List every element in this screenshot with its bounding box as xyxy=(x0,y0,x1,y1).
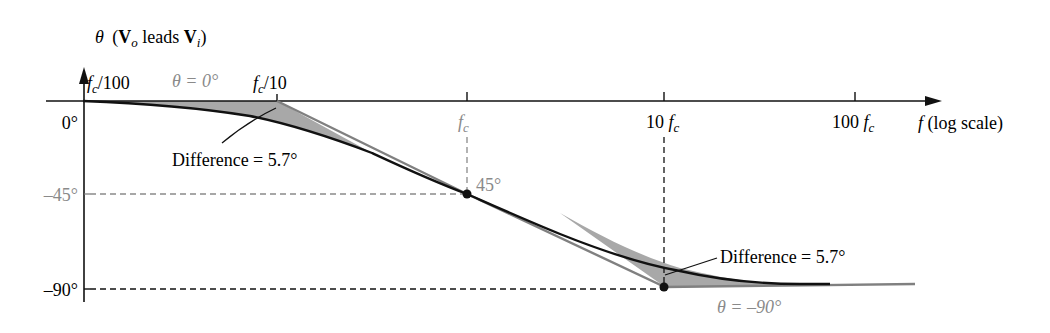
y-axis-title: θ (Vo leads Vi) xyxy=(95,27,206,50)
y-tick-label-minus45: –45° xyxy=(43,185,78,205)
theta-zero-label: θ = 0° xyxy=(172,71,218,91)
difference-label-right: Difference = 5.7° xyxy=(720,247,845,267)
x-tick-label-fc-100: fc/100 xyxy=(87,73,130,96)
y-tick-label-0: 0° xyxy=(62,113,78,133)
point-fc-45 xyxy=(463,190,472,199)
actual-phase-curve xyxy=(83,101,830,284)
y-tick-label-minus90: –90° xyxy=(43,280,78,300)
x-tick-label-fc: fc xyxy=(458,112,469,135)
x-axis-arrow-icon xyxy=(925,96,942,106)
difference-label-left: Difference = 5.7° xyxy=(172,150,297,170)
x-tick-label-fc-10: fc/10 xyxy=(253,73,287,96)
point-10fc-90 xyxy=(660,283,669,292)
x-axis-title: f (log scale) xyxy=(918,113,1003,134)
x-tick-label-100fc: 100 fc xyxy=(832,112,875,135)
x-tick-label-10fc: 10 fc xyxy=(646,112,680,135)
theta-minus90-label: θ = –90° xyxy=(717,297,781,317)
point-45-label: 45° xyxy=(476,175,501,195)
phase-plot: θ (Vo leads Vi) f (log scale) fc/100 fc/… xyxy=(0,0,1050,333)
